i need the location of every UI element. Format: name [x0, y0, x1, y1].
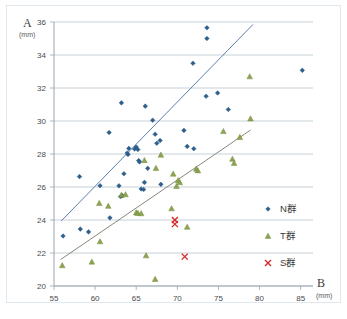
data-point-T群-14 — [158, 152, 164, 157]
data-point-S群-1 — [172, 221, 178, 227]
data-point-T群-15 — [169, 206, 175, 211]
data-point-T群-13 — [153, 165, 159, 170]
x-tick-label-75: 75 — [214, 294, 223, 303]
y-tick-label-28: 28 — [37, 150, 46, 159]
data-point-N群-0 — [61, 234, 66, 239]
gridlines-group — [54, 22, 313, 286]
data-point-N群-8 — [119, 101, 124, 106]
data-point-N群-25 — [150, 118, 155, 123]
data-point-T群-27 — [247, 74, 253, 79]
x-tick-label-55: 55 — [50, 294, 59, 303]
data-point-N群-39 — [300, 68, 305, 73]
data-point-N群-22 — [142, 180, 147, 185]
data-point-T群-6 — [123, 192, 129, 197]
data-point-T群-1 — [89, 259, 95, 264]
data-point-N群-2 — [77, 174, 82, 179]
data-point-N群-6 — [108, 216, 113, 221]
data-point-N群-28 — [158, 138, 163, 143]
data-points-group — [59, 25, 304, 281]
data-point-N群-11 — [122, 172, 127, 177]
data-point-N群-33 — [191, 61, 196, 66]
x-tick-labels-group: 55606570758085 — [50, 286, 306, 303]
y-tick-label-26: 26 — [37, 183, 46, 192]
data-point-T群-23 — [221, 128, 227, 133]
data-point-N群-30 — [182, 128, 187, 133]
y-tick-label-32: 32 — [37, 84, 46, 93]
legend-label-N群: N群 — [280, 203, 297, 214]
data-point-T群-28 — [248, 116, 254, 121]
data-point-N群-29 — [159, 182, 164, 187]
chart-plot-svg: 202224262830323436 55606570758085 N群T群S群 — [0, 0, 347, 319]
data-point-S群-2 — [182, 254, 188, 260]
y-tick-label-30: 30 — [37, 117, 46, 126]
data-point-N群-23 — [143, 104, 148, 109]
data-point-T群-4 — [105, 203, 111, 208]
legend-marker-S群 — [265, 260, 271, 266]
x-tick-label-70: 70 — [173, 294, 182, 303]
data-point-N群-5 — [107, 130, 112, 135]
legend-group: N群T群S群 — [265, 203, 297, 268]
data-point-N群-27 — [154, 141, 159, 146]
x-tick-label-60: 60 — [91, 294, 100, 303]
data-point-T群-3 — [96, 200, 102, 205]
data-point-T群-2 — [97, 239, 103, 244]
N群-trend — [61, 24, 253, 220]
y-tick-label-24: 24 — [37, 216, 46, 225]
data-point-N群-38 — [226, 107, 231, 112]
data-point-N群-31 — [185, 144, 190, 149]
data-point-T群-16 — [170, 171, 176, 176]
data-point-N群-3 — [86, 230, 91, 235]
data-point-T群-20 — [184, 224, 190, 229]
data-point-T群-26 — [237, 134, 243, 139]
x-tick-label-65: 65 — [132, 294, 141, 303]
x-tick-label-85: 85 — [296, 294, 305, 303]
y-tick-label-20: 20 — [37, 282, 46, 291]
data-point-N群-24 — [145, 166, 150, 171]
data-point-N群-1 — [78, 227, 83, 232]
data-point-T群-11 — [143, 253, 149, 258]
y-tick-labels-group: 202224262830323436 — [37, 18, 54, 291]
scatter-chart-figure: A (mm) B (mm) 202224262830323436 5560657… — [0, 0, 347, 319]
legend-marker-T群 — [265, 233, 271, 238]
T群-trend — [61, 130, 251, 260]
legend-marker-N群 — [266, 207, 271, 212]
y-tick-label-34: 34 — [37, 51, 46, 60]
y-tick-label-22: 22 — [37, 249, 46, 258]
data-point-N群-34 — [205, 25, 210, 30]
data-point-N群-32 — [191, 146, 196, 151]
data-point-T群-12 — [152, 276, 158, 281]
data-point-N群-36 — [204, 94, 209, 99]
legend-label-T群: T群 — [280, 230, 296, 241]
data-point-N群-35 — [205, 36, 210, 41]
data-point-N群-26 — [153, 132, 158, 137]
data-point-T群-10 — [142, 157, 148, 162]
x-tick-label-80: 80 — [255, 294, 264, 303]
legend-label-S群: S群 — [280, 257, 296, 268]
y-tick-label-36: 36 — [37, 18, 46, 27]
data-point-N群-37 — [215, 91, 220, 96]
data-point-T群-0 — [59, 263, 65, 268]
data-point-N群-7 — [117, 184, 122, 189]
